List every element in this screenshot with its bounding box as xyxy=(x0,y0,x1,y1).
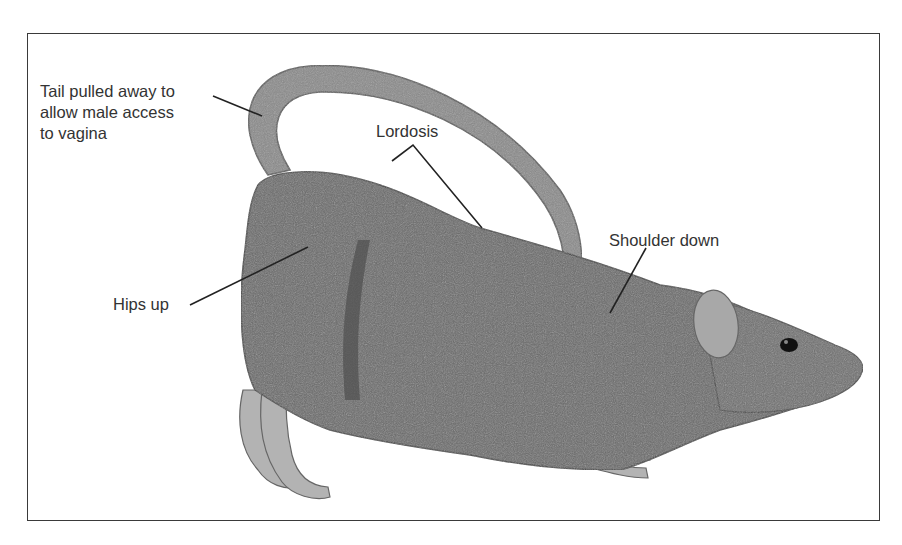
label-shoulder-down: Shoulder down xyxy=(609,230,719,251)
label-tail-line-2: allow male access xyxy=(40,102,175,123)
label-tail: Tail pulled away to allow male access to… xyxy=(40,81,175,144)
label-tail-line-3: to vagina xyxy=(40,123,175,144)
label-hips-up: Hips up xyxy=(113,294,169,315)
label-tail-line-1: Tail pulled away to xyxy=(40,81,175,102)
rat-eye xyxy=(780,338,798,352)
label-lordosis: Lordosis xyxy=(376,121,438,142)
